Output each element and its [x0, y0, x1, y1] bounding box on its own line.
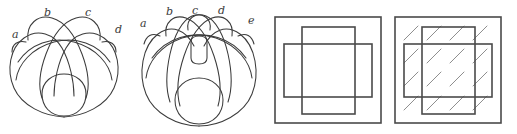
crossing-label-e: e — [248, 14, 255, 27]
figure-plate: a b c d — [0, 0, 517, 134]
crossing-label-d: d — [218, 4, 225, 17]
figure-overlapping-squares-plain — [270, 0, 390, 134]
figure-knot-diagram-5: a b c d e — [128, 0, 270, 134]
crossing-label-b: b — [166, 5, 173, 18]
horizontal-rectangle — [284, 44, 372, 97]
vertical-rectangle — [422, 27, 475, 114]
vertical-rectangle — [302, 27, 355, 114]
crossing-label-d: d — [115, 23, 122, 36]
knot-curves-4 — [10, 17, 118, 117]
knot-curves-5 — [142, 15, 256, 126]
crossing-label-c: c — [192, 4, 198, 17]
horizontal-rectangle — [404, 44, 492, 97]
crossing-label-b: b — [44, 6, 51, 19]
crossing-label-a: a — [140, 17, 147, 30]
crossing-label-a: a — [12, 28, 19, 41]
square-cross-plain — [275, 17, 381, 123]
outer-square — [275, 17, 381, 123]
crossing-label-c: c — [85, 6, 91, 19]
figure-overlapping-squares-hatched — [390, 0, 517, 134]
figure-knot-diagram-4: a b c d — [0, 0, 128, 134]
